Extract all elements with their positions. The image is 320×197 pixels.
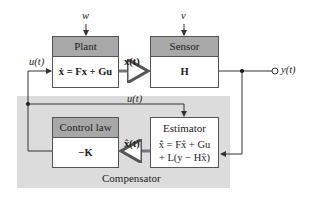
x-state-label: x(t) <box>124 56 140 67</box>
u-to-estimator-wire <box>28 104 184 116</box>
estimator-equation-line1: x̂̇ = Fx̂ + Gu <box>151 138 218 151</box>
u-input-label: u(t) <box>29 56 44 67</box>
plant-header: Plant <box>53 37 118 57</box>
plant-block: Plant ẋ = Fx + Gu <box>52 36 119 88</box>
u-input-wire <box>28 71 51 104</box>
control-law-equation: −K <box>53 146 118 159</box>
control-output-wire <box>28 104 52 151</box>
estimator-header: Estimator <box>151 122 218 134</box>
estimator-equation-line2: + L(y − Hx̂) <box>151 151 218 164</box>
sensor-equation: H <box>151 65 218 78</box>
estimator-block: Estimator x̂̇ = Fx̂ + Gu + L(y − Hx̂) <box>150 117 219 168</box>
output-terminal <box>272 68 278 74</box>
y-output-label: y(t) <box>281 64 296 75</box>
xhat-label: x̂(t) <box>124 138 140 149</box>
w-label: w <box>82 10 89 21</box>
compensator-label: Compensator <box>102 172 161 184</box>
control-law-header: Control law <box>53 118 118 138</box>
v-label: v <box>181 10 186 21</box>
sensor-header: Sensor <box>151 37 218 57</box>
control-law-block: Control law −K <box>52 117 119 168</box>
u-compensator-label: u(t) <box>127 93 142 104</box>
plant-equation: ẋ = Fx + Gu <box>53 65 118 78</box>
sensor-block: Sensor H <box>150 36 219 88</box>
y-feedback-wire <box>221 71 242 154</box>
